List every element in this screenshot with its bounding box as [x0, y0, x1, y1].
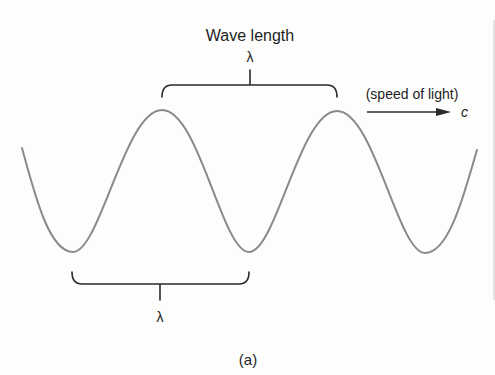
top-lambda-label: λ	[247, 49, 254, 65]
top-wavelength-bracket	[162, 70, 337, 97]
arrow-head-icon	[436, 108, 451, 116]
bottom-wavelength-bracket	[72, 272, 249, 300]
wave-length-title: Wave length	[206, 27, 294, 44]
figure-caption: (a)	[239, 351, 257, 368]
wave-diagram: Wave length λ (speed of light) c λ (a)	[0, 0, 495, 375]
bottom-lambda-label: λ	[157, 309, 164, 325]
wave-diagram-svg: Wave length λ (speed of light) c λ (a)	[0, 0, 495, 375]
sine-wave	[22, 110, 477, 253]
speed-symbol-c: c	[461, 104, 468, 120]
speed-of-light-label: (speed of light)	[366, 86, 459, 102]
